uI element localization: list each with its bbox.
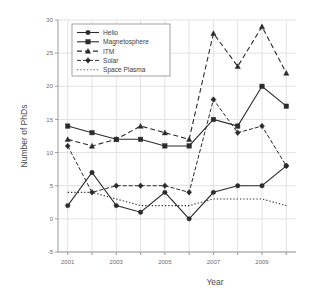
data-point-marker (163, 144, 167, 148)
data-point-marker (259, 24, 264, 29)
series-line (68, 86, 287, 146)
y-tick-label: 10 (46, 150, 53, 156)
data-point-marker (66, 124, 70, 128)
data-point-marker (138, 123, 143, 128)
data-point-marker (187, 190, 192, 196)
data-point-marker (114, 203, 118, 207)
data-point-marker (260, 84, 264, 88)
data-point-marker (138, 137, 142, 141)
data-point-marker (236, 184, 240, 188)
y-tick-label: 25 (46, 50, 53, 56)
series-line (68, 166, 287, 219)
data-point-marker (211, 190, 215, 194)
phd-line-chart: -505101520253020012003200520072009YearNu… (0, 0, 311, 298)
data-point-marker (86, 40, 90, 44)
x-tick-label: 2003 (110, 259, 124, 265)
data-point-marker (162, 183, 167, 189)
data-point-marker (236, 124, 240, 128)
x-axis-ticks: 20012003200520072009 (61, 252, 286, 265)
data-point-marker (163, 190, 167, 194)
x-tick-label: 2007 (207, 259, 221, 265)
data-point-marker (65, 143, 70, 149)
legend-item-label: Helio (103, 29, 118, 36)
data-point-marker (138, 183, 143, 189)
data-point-marker (86, 30, 90, 34)
y-tick-label: 30 (46, 17, 53, 23)
series-space-plasma (68, 192, 287, 205)
legend-item-label: Solar (103, 57, 119, 64)
data-point-marker (187, 144, 191, 148)
y-tick-label: 15 (46, 117, 53, 123)
legend-item-label: Space Plasma (103, 66, 146, 74)
legend: HelioMagnetosphereITMSolarSpace Plasma (72, 24, 170, 76)
legend-item-label: ITM (103, 48, 114, 55)
data-point-marker (66, 203, 70, 207)
x-tick-label: 2009 (255, 259, 269, 265)
y-tick-label: 0 (50, 216, 54, 222)
x-axis-title: Year (206, 277, 223, 287)
y-axis-title: Number of PhDs (19, 105, 29, 168)
chart-canvas: -505101520253020012003200520072009YearNu… (0, 0, 311, 298)
legend-item-label: Magnetosphere (103, 38, 149, 46)
y-tick-label: 5 (50, 183, 54, 189)
data-point-marker (284, 70, 289, 75)
data-point-marker (260, 184, 264, 188)
series-line (68, 192, 287, 205)
series-helio (66, 164, 289, 221)
data-point-marker (211, 117, 215, 121)
x-tick-label: 2005 (158, 259, 172, 265)
data-point-marker (187, 217, 191, 221)
data-point-marker (90, 170, 94, 174)
series-magnetosphere (66, 84, 289, 148)
y-axis-ticks: -5051015202530 (46, 17, 58, 255)
y-tick-label: 20 (46, 83, 53, 89)
x-tick-label: 2001 (61, 259, 75, 265)
data-point-marker (90, 130, 94, 134)
data-point-marker (114, 183, 119, 189)
data-point-marker (260, 123, 265, 129)
data-point-marker (187, 137, 192, 142)
data-point-marker (284, 104, 288, 108)
data-point-marker (138, 210, 142, 214)
data-point-marker (65, 137, 70, 142)
y-tick-label: -5 (48, 249, 54, 255)
data-point-marker (211, 31, 216, 36)
data-point-marker (162, 130, 167, 135)
